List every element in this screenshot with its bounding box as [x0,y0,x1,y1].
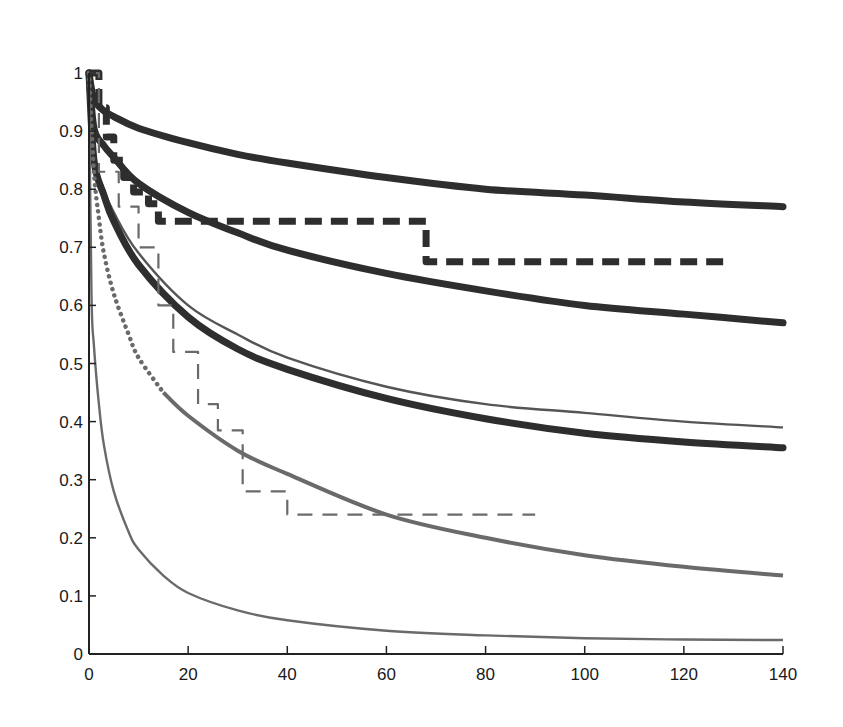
chart: 020406080100120140 00.10.20.30.40.50.60.… [0,0,843,727]
x-tick-label: 60 [377,665,396,684]
y-tick-label: 1 [74,64,83,83]
thin-gray-curve [89,73,783,427]
thick-curve-top [89,73,783,207]
x-tick-label: 40 [278,665,297,684]
y-tick-label: 0.9 [59,122,83,141]
y-tick-label: 0.1 [59,587,83,606]
x-tick-label: 140 [769,665,797,684]
x-tick-label: 0 [84,665,93,684]
y-tick-label: 0.5 [59,355,83,374]
y-tick-label: 0.8 [59,180,83,199]
y-tick-label: 0 [74,645,83,664]
plot-curves [89,73,783,640]
thick-curve-second [89,73,783,323]
x-tick-label: 120 [670,665,698,684]
thin-dashed-step [89,73,535,515]
y-tick-label: 0.6 [59,296,83,315]
x-tick-label: 80 [476,665,495,684]
x-tick-label: 100 [571,665,599,684]
thick-dashed-step [89,73,724,262]
y-tick-label: 0.2 [59,529,83,548]
x-tick-label: 20 [179,665,198,684]
x-axis: 020406080100120140 [84,646,797,684]
y-tick-label: 0.3 [59,471,83,490]
y-tick-label: 0.4 [59,413,83,432]
thin-bottom-curve [89,73,783,640]
y-tick-label: 0.7 [59,238,83,257]
